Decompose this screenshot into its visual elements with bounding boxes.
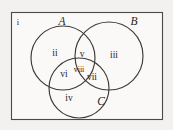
universal-set-rectangle (12, 13, 163, 120)
venn-diagram-figure: i A B C ii iii iv v vi vii viii (0, 0, 173, 130)
region-label-a-and-c: vi (60, 69, 68, 79)
region-label-b-and-c: vii (87, 72, 97, 82)
venn-diagram-canvas: i A B C ii iii iv v vi vii viii (0, 0, 173, 130)
region-label-a-and-b: v (80, 49, 85, 59)
set-label-c: C (97, 95, 105, 107)
region-label-a-only: ii (52, 48, 58, 58)
set-label-b: B (130, 15, 137, 27)
region-label-c-only: iv (65, 93, 73, 103)
region-label-b-only: iii (110, 50, 118, 60)
set-label-a: A (57, 15, 66, 27)
region-label-a-and-b-and-c: viii (74, 65, 85, 74)
